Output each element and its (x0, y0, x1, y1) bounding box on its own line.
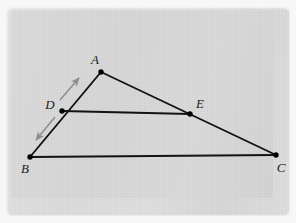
segment-bc (30, 155, 276, 157)
vertex-label-b: B (21, 161, 29, 176)
vertex-dot-d (59, 108, 64, 113)
vertex-dot-e (187, 111, 192, 116)
direction-arrow-group (36, 78, 79, 140)
vertex-label-a: A (90, 52, 99, 67)
diagram-canvas: A B C D E (0, 0, 296, 223)
vertex-dot-c (273, 152, 278, 157)
vertex-label-e: E (195, 96, 204, 111)
segment-de (62, 111, 190, 114)
vertex-dot-a (98, 69, 103, 74)
vertex-label-c: C (277, 160, 286, 175)
vertex-dot-b (27, 154, 32, 159)
segment-ab (30, 72, 101, 157)
vertex-label-d: D (44, 97, 55, 112)
arrow-toward-a-icon (60, 78, 79, 100)
geometry-figure: A B C D E (0, 0, 296, 223)
segment-group (30, 72, 276, 157)
arrow-toward-b-icon (36, 117, 55, 140)
